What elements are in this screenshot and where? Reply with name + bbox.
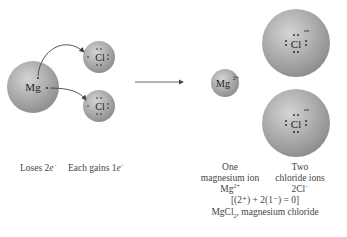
svg-text:Mg: Mg: [216, 78, 230, 89]
svg-text:Cl: Cl: [291, 118, 301, 130]
caption-mg-formula: Mg2+: [200, 184, 260, 195]
svg-text:2+: 2+: [233, 75, 239, 81]
caption-loses-electrons: Loses 2e−: [20, 163, 57, 174]
cl-atom-bottom: Cl: [83, 90, 115, 122]
svg-text:Cl: Cl: [95, 52, 105, 63]
svg-text:Cl: Cl: [291, 38, 301, 50]
caption-one: One: [200, 162, 260, 173]
charge-balance: [(2⁺) + 2(1⁻) = 0]: [205, 195, 325, 206]
caption-two: Two: [270, 162, 330, 173]
cl-atom-top: Cl: [83, 41, 115, 73]
cl-ion-top: Cl: [262, 9, 330, 77]
caption-chloride-ions: chloride ions: [265, 173, 335, 184]
svg-text:Mg: Mg: [25, 81, 41, 93]
cl-ion-bottom: Cl: [262, 89, 330, 157]
caption-gains-electron: Each gains 1e−: [68, 163, 124, 174]
mg-atom: Mg: [7, 61, 59, 113]
caption-cl-formula: 2Cl−: [270, 184, 330, 195]
compound-name: MgCl2, magnesium chloride: [190, 207, 340, 218]
caption-magnesium-ion: magnesium ion: [195, 173, 265, 184]
mg-ion: Mg 2+: [211, 69, 239, 97]
svg-text:Cl: Cl: [95, 101, 105, 112]
